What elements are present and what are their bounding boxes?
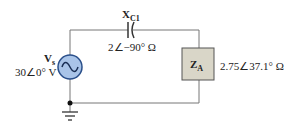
capacitor-value: 2∠−90° Ω (108, 41, 156, 53)
source-value: 30∠0° V (15, 66, 56, 78)
capacitor-label: XC1 (122, 8, 140, 25)
ground-icon (62, 112, 78, 120)
ac-source-icon (58, 55, 82, 79)
load-value: 2.75∠37.1° Ω (220, 60, 284, 72)
junction-dot (68, 101, 73, 106)
load-label: ZA (190, 58, 203, 75)
